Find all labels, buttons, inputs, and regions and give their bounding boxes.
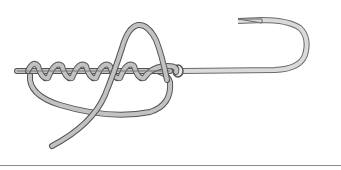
divider-rule <box>0 165 341 166</box>
line-wraps <box>17 64 176 78</box>
knot-diagram: .lo { fill:none; stroke:#555; stroke-wid… <box>0 0 341 170</box>
tag-end <box>52 25 167 146</box>
hook <box>183 19 307 71</box>
